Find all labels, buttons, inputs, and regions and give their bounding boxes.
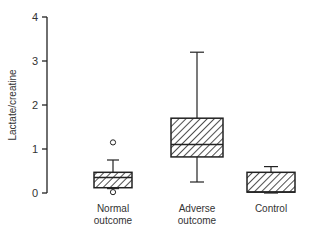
- category-label-adverse-line1: Adverse: [179, 203, 216, 214]
- box-1: [171, 52, 223, 182]
- outlier-point: [110, 190, 115, 195]
- y-tick-label: 2: [32, 99, 38, 111]
- y-axis: 01234: [32, 11, 47, 199]
- category-label-control: Control: [255, 203, 287, 214]
- category-label-normal-line1: Normal: [97, 203, 129, 214]
- box-0: [94, 140, 132, 195]
- category-label-adverse-line2: outcome: [178, 215, 217, 226]
- category-labels: Normal outcome Adverse outcome Control: [94, 203, 287, 226]
- y-tick-label: 3: [32, 55, 38, 67]
- outlier-point: [110, 140, 115, 145]
- y-tick-label: 0: [32, 187, 38, 199]
- box-2: [247, 167, 295, 193]
- y-tick-label: 1: [32, 143, 38, 155]
- category-label-normal-line2: outcome: [94, 215, 133, 226]
- box-plot: 01234 Lactate/creatine Normal outcome Ad…: [0, 0, 313, 233]
- boxes: [94, 52, 295, 195]
- y-axis-title: Lactate/creatine: [7, 69, 18, 141]
- y-tick-label: 4: [32, 11, 38, 23]
